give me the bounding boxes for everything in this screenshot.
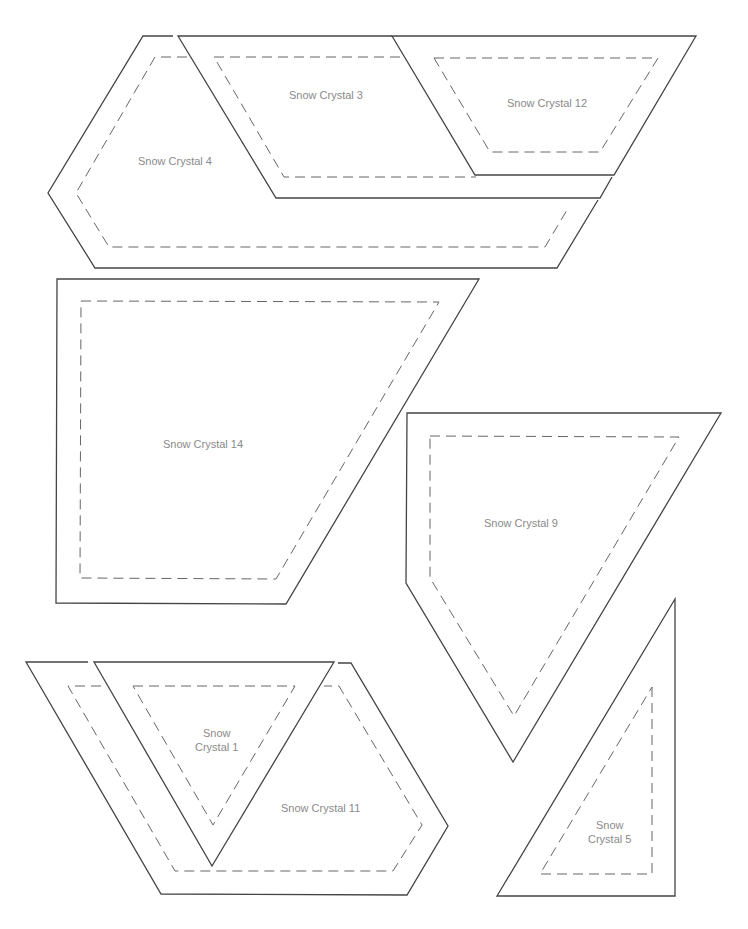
label-snow-crystal-4: Snow Crystal 4 bbox=[138, 154, 212, 168]
label-line-2: Crystal 1 bbox=[195, 741, 238, 753]
label-line-2: Crystal 5 bbox=[588, 833, 631, 845]
template-sheet bbox=[0, 0, 748, 929]
label-snow-crystal-11: Snow Crystal 11 bbox=[281, 801, 360, 815]
label-line-1: Snow bbox=[596, 819, 624, 831]
label-line-1: Snow bbox=[203, 727, 231, 739]
piece-snow-crystal-5 bbox=[497, 599, 675, 896]
piece-snow-crystal-1 bbox=[94, 662, 334, 866]
label-snow-crystal-14: Snow Crystal 14 bbox=[163, 437, 243, 451]
label-snow-crystal-12: Snow Crystal 12 bbox=[507, 96, 587, 110]
piece-snow-crystal-3 bbox=[178, 36, 612, 198]
label-snow-crystal-5: Snow Crystal 5 bbox=[588, 818, 631, 846]
piece-snow-crystal-9 bbox=[406, 413, 721, 762]
label-snow-crystal-9: Snow Crystal 9 bbox=[484, 516, 558, 530]
piece-snow-crystal-14 bbox=[56, 279, 479, 604]
label-snow-crystal-3: Snow Crystal 3 bbox=[289, 88, 363, 102]
piece-snow-crystal-11 bbox=[26, 662, 448, 895]
label-snow-crystal-1: Snow Crystal 1 bbox=[195, 726, 238, 754]
